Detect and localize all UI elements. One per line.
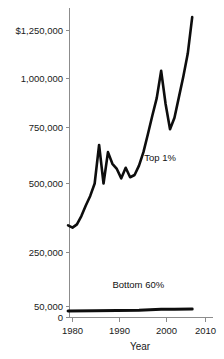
series-line-top-1-percent — [68, 17, 192, 228]
chart-canvas: $1,250,000 1,000,000 750,000 500,000 250… — [0, 0, 224, 359]
x-tick-label-1990: 1990 — [109, 325, 130, 336]
y-tick-label-1250000: $1,250,000 — [15, 25, 63, 36]
series-line-bottom-60-percent — [68, 309, 192, 311]
x-tick-marks — [73, 318, 206, 322]
y-tick-label-500000: 500,000 — [29, 178, 63, 189]
x-tick-label-2000: 2000 — [156, 325, 177, 336]
y-tick-label-750000: 750,000 — [29, 122, 63, 133]
annotation-bottom-60-percent: Bottom 60% — [112, 279, 164, 290]
x-axis-title: Year — [130, 341, 151, 352]
y-tick-label-0: 0 — [58, 312, 63, 323]
y-tick-label-250000: 250,000 — [29, 247, 63, 258]
x-tick-label-2010: 2010 — [195, 325, 216, 336]
income-chart: $1,250,000 1,000,000 750,000 500,000 250… — [0, 0, 224, 359]
x-tick-label-1980: 1980 — [62, 325, 83, 336]
annotation-top-1-percent: Top 1% — [144, 152, 176, 163]
y-tick-label-1000000: 1,000,000 — [21, 73, 63, 84]
y-tick-label-50000: 50,000 — [34, 301, 63, 312]
